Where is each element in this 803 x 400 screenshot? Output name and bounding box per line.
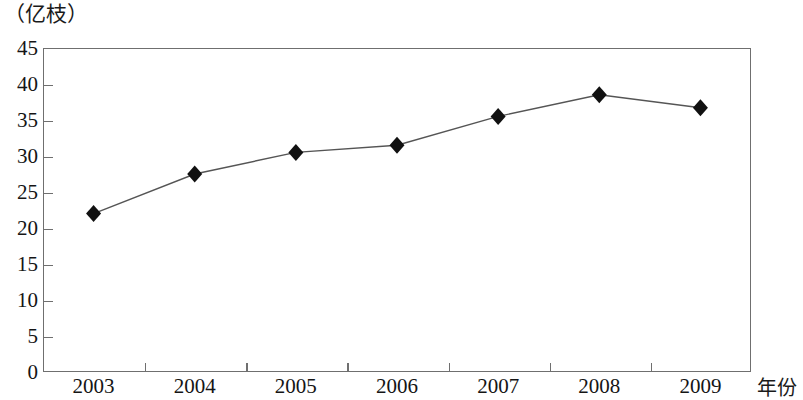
y-tick-mark bbox=[44, 229, 53, 230]
y-tick-label-35: 35 bbox=[0, 110, 38, 131]
x-tick-label-2008: 2008 bbox=[578, 376, 620, 397]
x-tick-mark bbox=[246, 363, 247, 372]
x-tick-mark bbox=[449, 363, 450, 372]
line-chart: （亿枝） 051015202530354045 2003200420052006… bbox=[0, 0, 803, 400]
y-tick-label-5: 5 bbox=[0, 326, 38, 347]
plot-area bbox=[43, 48, 751, 372]
y-tick-mark bbox=[44, 121, 53, 122]
x-tick-label-2009: 2009 bbox=[679, 376, 721, 397]
x-tick-label-2006: 2006 bbox=[376, 376, 418, 397]
x-tick-mark bbox=[550, 363, 551, 372]
y-tick-mark bbox=[44, 301, 53, 302]
x-tick-mark bbox=[651, 363, 652, 372]
x-tick-label-2004: 2004 bbox=[174, 376, 216, 397]
x-axis-tick-labels: 2003200420052006200720082009 bbox=[0, 376, 803, 400]
x-tick-label-2003: 2003 bbox=[73, 376, 115, 397]
y-tick-label-10: 10 bbox=[0, 290, 38, 311]
y-tick-label-30: 30 bbox=[0, 146, 38, 167]
y-tick-mark bbox=[44, 337, 53, 338]
y-tick-label-40: 40 bbox=[0, 74, 38, 95]
y-axis-tick-labels: 051015202530354045 bbox=[0, 0, 38, 400]
y-tick-label-45: 45 bbox=[0, 38, 38, 59]
y-tick-mark bbox=[44, 193, 53, 194]
y-tick-mark bbox=[44, 265, 53, 266]
y-tick-label-15: 15 bbox=[0, 254, 38, 275]
x-tick-label-2005: 2005 bbox=[275, 376, 317, 397]
x-tick-label-2007: 2007 bbox=[477, 376, 519, 397]
y-tick-label-20: 20 bbox=[0, 218, 38, 239]
y-tick-mark bbox=[44, 157, 53, 158]
x-tick-mark bbox=[145, 363, 146, 372]
y-tick-mark bbox=[44, 85, 53, 86]
y-tick-label-25: 25 bbox=[0, 182, 38, 203]
x-axis-title: 年份 bbox=[757, 378, 797, 398]
x-tick-mark bbox=[347, 363, 348, 372]
